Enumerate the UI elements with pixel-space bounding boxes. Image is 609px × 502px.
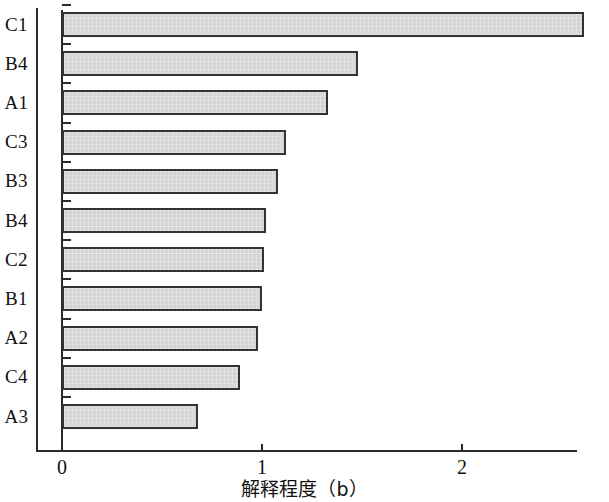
- y-axis-tick: [62, 43, 71, 45]
- bar: [62, 90, 328, 115]
- bar: [62, 208, 266, 233]
- bar: [62, 247, 264, 272]
- bar: [62, 12, 584, 37]
- y-axis-tick: [62, 357, 71, 359]
- category-label: A1: [0, 93, 33, 112]
- category-label: B1: [0, 289, 33, 308]
- x-axis-spine: [36, 450, 577, 452]
- y-axis-tick: [62, 239, 71, 241]
- category-label: A3: [0, 407, 33, 426]
- category-label: A2: [0, 328, 33, 347]
- x-axis-tick-label: 2: [442, 456, 482, 478]
- bar: [62, 326, 258, 351]
- y-axis-tick: [62, 200, 71, 202]
- category-label: C3: [0, 132, 33, 151]
- y-axis-tick: [62, 396, 71, 398]
- x-axis-tick-label: 1: [242, 456, 282, 478]
- x-axis-tick: [461, 444, 463, 452]
- category-label: B4: [0, 54, 33, 73]
- y-axis-spine: [36, 8, 38, 452]
- category-label: B3: [0, 171, 33, 190]
- y-axis-tick: [62, 122, 71, 124]
- category-label: B4: [0, 211, 33, 230]
- x-axis-tick-label: 0: [42, 456, 82, 478]
- category-label: C1: [0, 15, 33, 34]
- bar: [62, 169, 278, 194]
- y-axis-tick: [62, 4, 71, 6]
- bar: [62, 286, 262, 311]
- x-axis-tick: [61, 444, 63, 452]
- bar: [62, 365, 240, 390]
- bar: [62, 404, 198, 429]
- y-axis-tick: [62, 161, 71, 163]
- x-axis-title: 解释程度（b）: [0, 478, 609, 500]
- y-axis-tick: [62, 278, 71, 280]
- x-axis-tick: [261, 444, 263, 452]
- y-axis-tick: [62, 318, 71, 320]
- y-axis-tick: [62, 82, 71, 84]
- horizontal-bar-chart: C1B4A1C3B3B4C2B1A2C4A3 012 解释程度（b）: [0, 0, 609, 502]
- category-label: C4: [0, 367, 33, 386]
- category-label: C2: [0, 250, 33, 269]
- bar: [62, 51, 358, 76]
- bar: [62, 130, 286, 155]
